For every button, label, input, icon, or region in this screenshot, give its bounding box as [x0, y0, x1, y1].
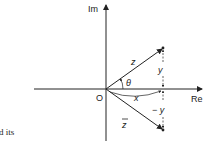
svg-text:z: z [121, 120, 127, 130]
neg-y-label: − y [152, 105, 165, 115]
z-vector [106, 49, 162, 89]
theta-arc [120, 79, 123, 89]
z-conjugate-label: z [121, 119, 128, 130]
real-axis-label: Re [191, 94, 203, 104]
x-label: x [133, 93, 139, 103]
y-label: y [157, 65, 163, 75]
imaginary-axis-label: Im [88, 4, 98, 14]
complex-plane-diagram: Im Re O z z θ x y − y d its [0, 0, 209, 141]
origin-label: O [96, 93, 103, 103]
theta-label: θ [126, 78, 131, 88]
z-conjugate-point [162, 129, 165, 132]
z-label: z [130, 57, 136, 67]
z-point [162, 47, 165, 50]
body-text-fragment: d its [0, 127, 15, 137]
